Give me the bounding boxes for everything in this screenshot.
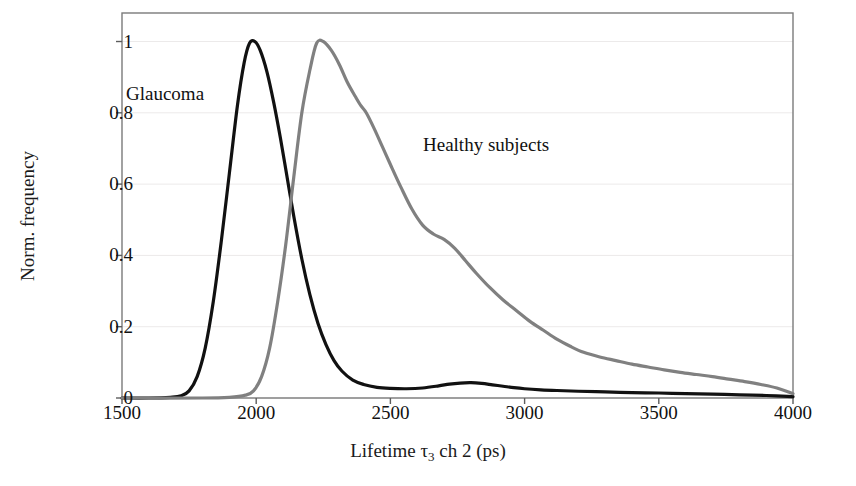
y-tick-label: 0.8 [109, 102, 133, 124]
x-axis-label-suffix: ch 2 (ps) [435, 440, 506, 461]
series-line-glaucoma [122, 41, 793, 398]
y-tick-label: 0.2 [109, 316, 133, 338]
x-axis-label-prefix: Lifetime τ [350, 440, 428, 461]
y-tick-label: 1 [124, 31, 134, 53]
x-tick-label: 3500 [640, 402, 678, 424]
x-tick-label: 1500 [103, 402, 141, 424]
x-tick-label: 2000 [237, 402, 275, 424]
series-annotation-healthy: Healthy subjects [423, 134, 549, 156]
y-tick-label: 0 [124, 387, 134, 409]
x-axis-label: Lifetime τ3 ch 2 (ps) [0, 440, 856, 462]
chart-figure: 150020002500300035004000 00.20.40.60.81 … [0, 0, 856, 486]
x-tick-label: 4000 [774, 402, 812, 424]
x-tick-label: 2500 [371, 402, 409, 424]
y-tick-label: 0.6 [109, 173, 133, 195]
x-axis-label-subscript: 3 [428, 449, 435, 464]
x-tick-label: 3000 [506, 402, 544, 424]
y-axis-label: Norm. frequency [17, 126, 39, 306]
series-lines [122, 40, 793, 398]
axis-frame [122, 13, 793, 398]
y-tick-label: 0.4 [109, 244, 133, 266]
series-annotation-glaucoma: Glaucoma [126, 83, 204, 105]
tick-marks [116, 42, 793, 404]
plot-border [122, 13, 793, 398]
